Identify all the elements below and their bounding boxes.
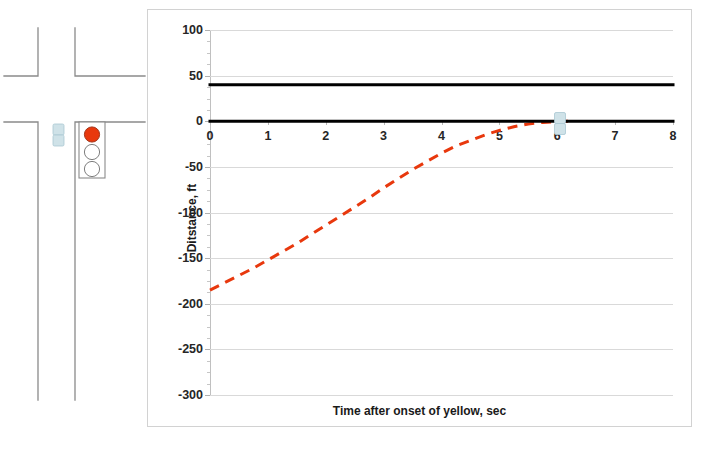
vehicle-marker-on-chart xyxy=(554,112,566,140)
road-edge-northeast xyxy=(75,28,145,76)
series-vehicle-trajectory xyxy=(210,121,572,290)
ytick-label-0: 0 xyxy=(196,114,203,128)
traffic-signal-head xyxy=(79,122,105,178)
vehicle-at-stop-line xyxy=(53,124,64,146)
ytick-label-minus100: -100 xyxy=(178,206,203,220)
gridline-minus300 xyxy=(210,395,673,396)
yellow-lamp xyxy=(84,144,99,159)
ytick-label-minus200: -200 xyxy=(178,297,203,311)
ytick-label-minus300: -300 xyxy=(178,388,203,402)
ytick-mark-minus300 xyxy=(205,395,210,396)
red-lamp xyxy=(84,127,99,142)
ytick-label-50: 50 xyxy=(189,69,203,83)
intersection-svg xyxy=(0,0,148,451)
ytick-label-100: 100 xyxy=(182,23,203,37)
intersection-diagram xyxy=(0,0,148,451)
ytick-label-minus150: -150 xyxy=(178,251,203,265)
x-axis-title: Time after onset of yellow, sec xyxy=(148,404,691,418)
road-edges xyxy=(4,28,145,400)
plot-area: 100 50 0 -50 -100 -150 -200 -250 -300 0 … xyxy=(210,30,673,395)
chart-frame: Ditstance, ft Time after onset of yellow… xyxy=(147,9,692,427)
road-edge-southwest xyxy=(4,122,38,400)
ytick-label-minus250: -250 xyxy=(178,342,203,356)
ytick-label-minus50: -50 xyxy=(185,160,203,174)
green-lamp xyxy=(84,161,99,176)
data-series-layer xyxy=(210,30,673,395)
road-edge-northwest xyxy=(4,28,38,76)
